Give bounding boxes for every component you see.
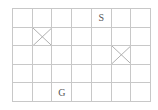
- cross-icon: [112, 46, 131, 64]
- grid-cell: [52, 9, 72, 28]
- grid-cell: [52, 65, 72, 84]
- grid-cell: [33, 9, 53, 28]
- grid-cell: [52, 28, 72, 47]
- grid-cell: [13, 9, 33, 28]
- grid-cell: [72, 83, 92, 102]
- grid-cell: [13, 46, 33, 65]
- grid-cell: [33, 65, 53, 84]
- grid-cell: [13, 83, 33, 102]
- grid-cell: [112, 83, 132, 102]
- grid-cell: [112, 28, 132, 47]
- grid-cell: [72, 9, 92, 28]
- grid-cell: [131, 83, 151, 102]
- grid-cell: [112, 9, 132, 28]
- grid-cell: [72, 65, 92, 84]
- grid-cell: [13, 28, 33, 47]
- grid-cell: [131, 9, 151, 28]
- grid-cell: [33, 83, 53, 102]
- cross-icon: [33, 28, 52, 46]
- grid-cell: [131, 46, 151, 65]
- grid-cell: [131, 28, 151, 47]
- grid-cell-blocked: [33, 28, 53, 47]
- grid-cell: [112, 65, 132, 84]
- grid-cell: [72, 28, 92, 47]
- grid-cell: [92, 83, 112, 102]
- grid-world: SG: [12, 8, 151, 102]
- grid-cell-blocked: [112, 46, 132, 65]
- start-label: S: [98, 12, 104, 23]
- grid-cell: [13, 65, 33, 84]
- grid-cell: [72, 46, 92, 65]
- grid-cell: [92, 28, 112, 47]
- grid-cell: [52, 46, 72, 65]
- grid-cell: [33, 46, 53, 65]
- grid-cell-start: S: [92, 9, 112, 28]
- goal-label: G: [58, 87, 65, 98]
- grid-cell: [92, 65, 112, 84]
- grid-cell: [92, 46, 112, 65]
- grid-cell: [131, 65, 151, 84]
- grid-cell-goal: G: [52, 83, 72, 102]
